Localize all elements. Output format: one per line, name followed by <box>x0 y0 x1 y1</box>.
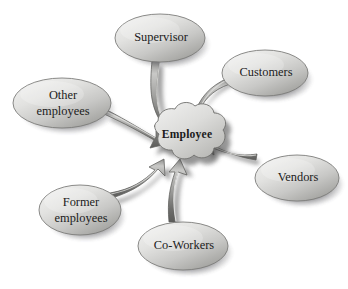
employee-relationship-diagram: Employee Supervisor Customers Vendors <box>0 0 348 289</box>
diagram-canvas: Employee Supervisor Customers Vendors <box>0 0 348 289</box>
center-node-label: Employee <box>162 128 213 141</box>
node-label-co-workers: Co-Workers <box>154 238 214 252</box>
node-label-customers: Customers <box>239 65 292 79</box>
node-label-former-employees-line1: Former <box>63 195 100 209</box>
node-vendors[interactable]: Vendors <box>255 155 345 208</box>
node-customers[interactable]: Customers <box>222 50 314 103</box>
node-label-former-employees-line2: employees <box>55 211 108 225</box>
node-other-employees[interactable]: Other employees <box>13 78 117 135</box>
node-label-supervisor: Supervisor <box>134 30 189 44</box>
node-label-vendors: Vendors <box>278 170 319 184</box>
node-supervisor[interactable]: Supervisor <box>115 14 211 69</box>
node-label-other-employees-line2: employees <box>37 104 90 118</box>
node-co-workers[interactable]: Co-Workers <box>138 222 234 277</box>
node-label-other-employees-line1: Other <box>49 88 78 102</box>
